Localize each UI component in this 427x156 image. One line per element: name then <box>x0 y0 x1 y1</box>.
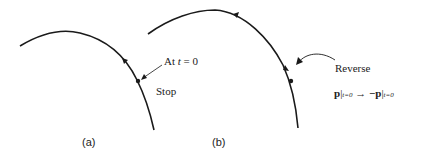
trajectory-curve-a <box>20 31 154 130</box>
trajectory-curve-b <box>148 10 298 128</box>
pointer-arrowhead-icon <box>141 74 147 80</box>
pointer-arrow <box>143 65 162 78</box>
at-t0-label: At t = 0 <box>164 55 198 67</box>
stop-label: Stop <box>156 85 176 97</box>
reverse-curved-arrow <box>299 54 335 62</box>
reverse-arrowhead-icon <box>296 57 303 65</box>
momentum-equation: p|t=0 → −p|t=0 <box>334 87 394 99</box>
trajectory-diagram <box>0 0 427 156</box>
panel-label-a: (a) <box>82 136 95 148</box>
stop-point <box>136 79 140 83</box>
reverse-label: Reverse <box>335 62 370 74</box>
reverse-point <box>289 79 293 83</box>
panel-label-b: (b) <box>212 136 225 148</box>
